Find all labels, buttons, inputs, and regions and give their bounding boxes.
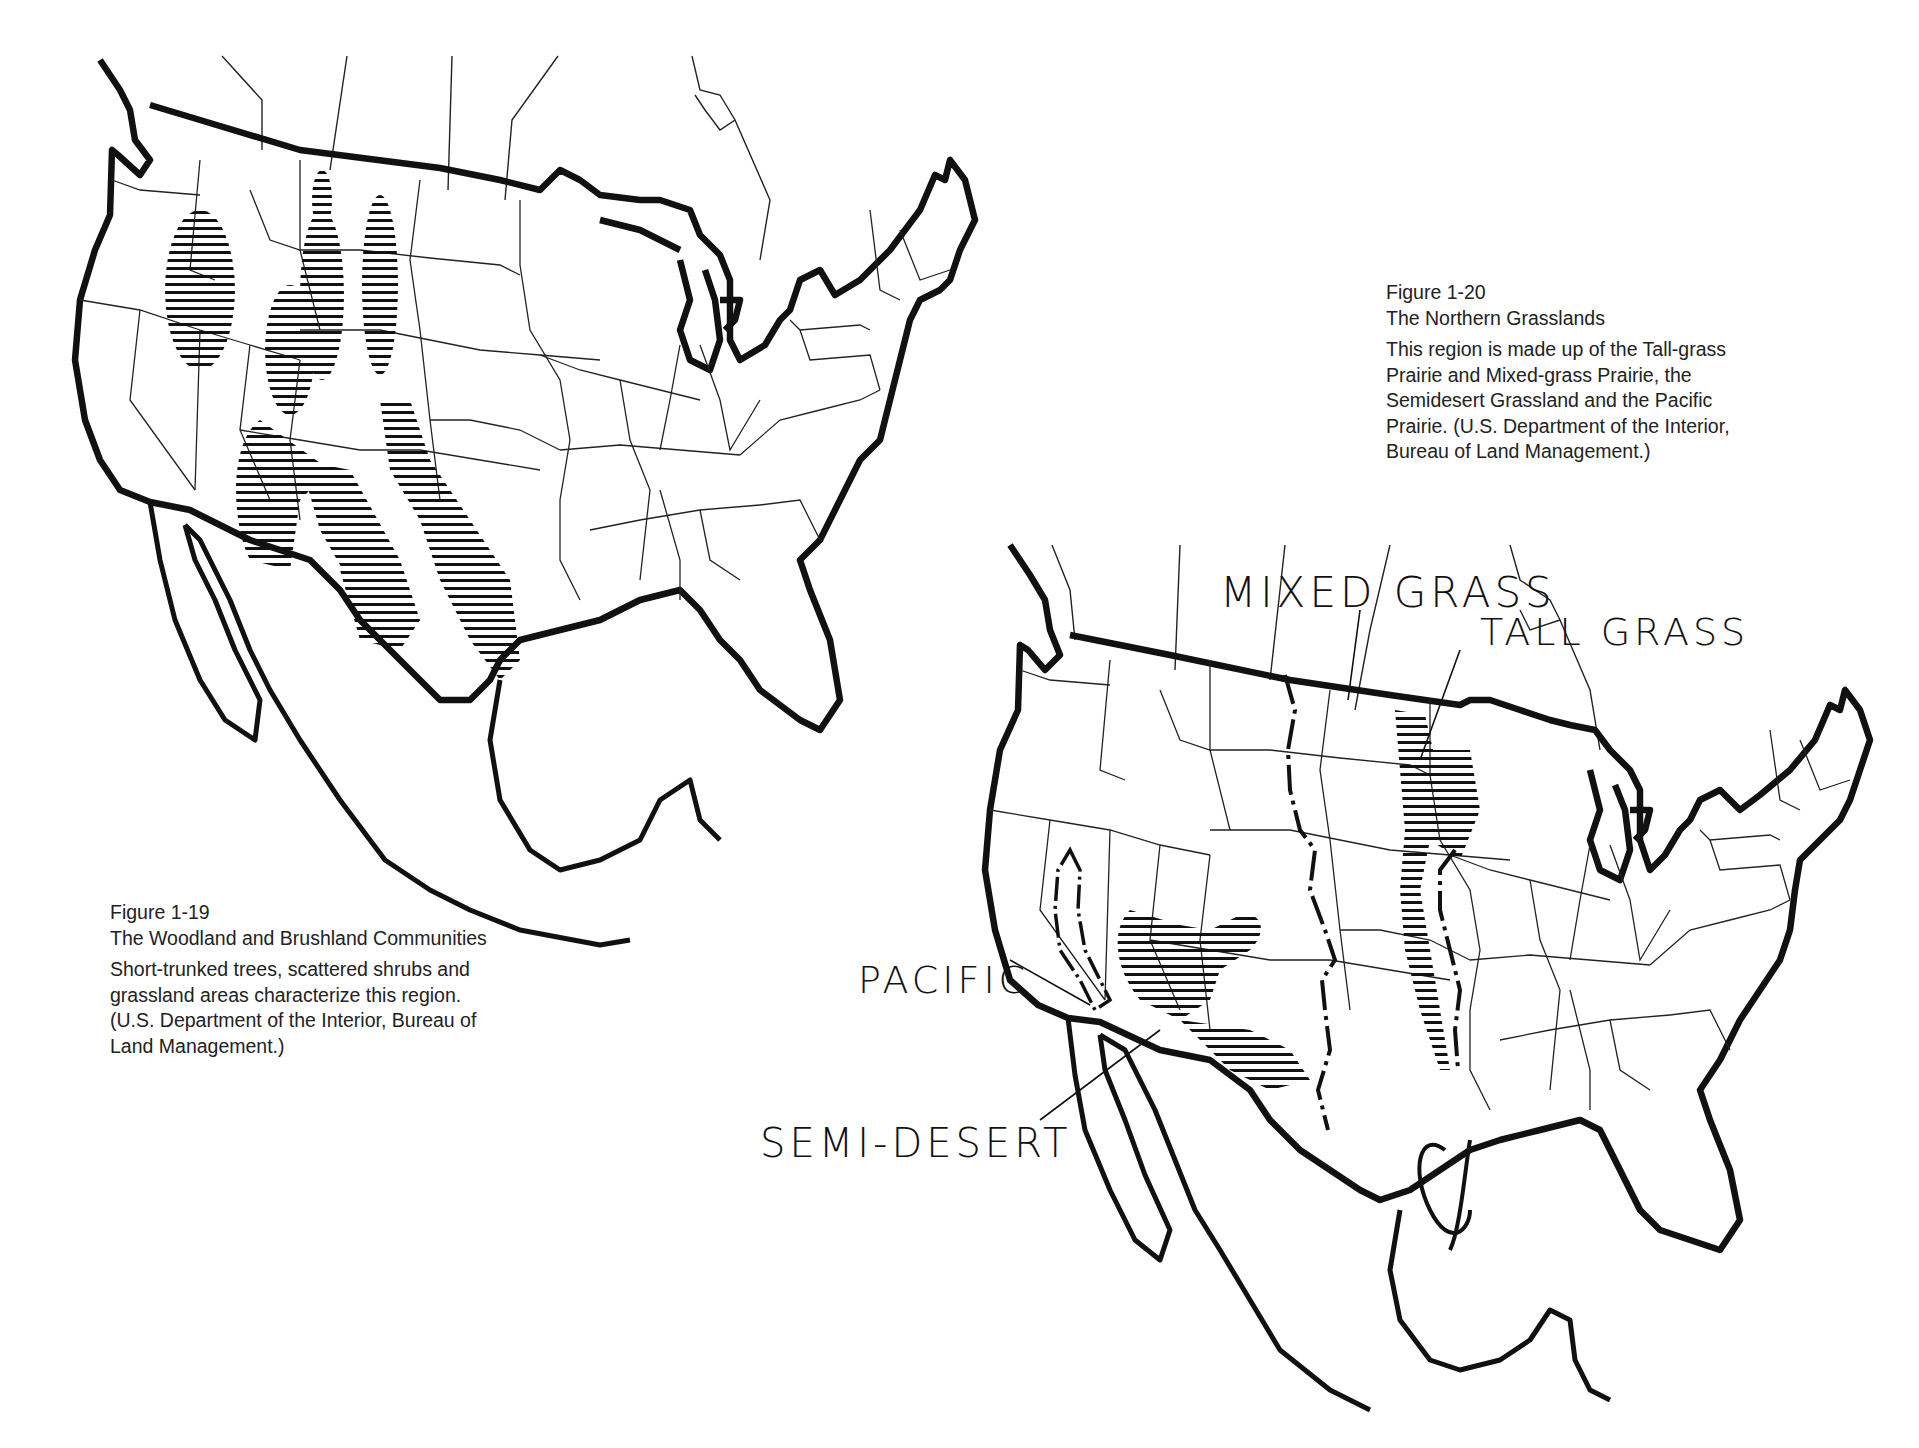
label-leader-lines <box>0 0 1919 1448</box>
